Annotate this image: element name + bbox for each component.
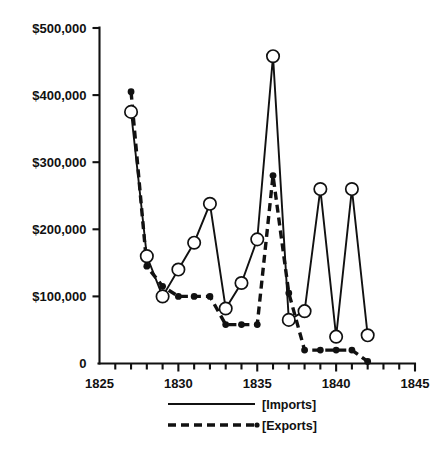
y-axis-tick-label: $300,000 [32,155,86,170]
data-point-marker [364,358,371,365]
data-point-marker [285,290,292,297]
x-axis-tick-label: 1840 [322,376,351,391]
data-series-group [125,50,374,365]
data-point-marker [143,263,150,270]
y-axis: 0$100,000$200,000$300,000$400,000$500,00… [32,21,99,372]
y-axis-tick-label: 0 [79,356,86,371]
data-point-marker [141,250,153,262]
data-point-marker [267,50,279,62]
data-point-marker [191,293,198,300]
data-point-marker [159,283,166,290]
data-point-marker [314,183,326,195]
data-point-marker [207,293,214,300]
data-point-marker [333,347,340,354]
data-point-marker [301,347,308,354]
data-point-marker [317,347,324,354]
legend-label-imports: [Imports] [262,398,316,412]
chart-figure: 0$100,000$200,000$300,000$400,000$500,00… [0,0,435,455]
data-point-marker [298,305,310,317]
y-axis-tick-label: $400,000 [32,88,86,103]
exports-series-line [131,92,368,362]
data-point-marker [330,330,342,342]
y-axis-tick-label: $100,000 [32,289,86,304]
data-point-marker [235,277,247,289]
y-axis-tick-label: $500,000 [32,21,86,36]
data-point-marker [188,237,200,249]
data-point-marker [349,347,356,354]
data-point-marker [283,314,295,326]
x-axis: 18251830183518401845 [85,364,429,391]
chart-legend: [Imports][Exports] [168,398,317,433]
data-point-marker [125,106,137,118]
x-axis-tick-label: 1830 [164,376,193,391]
data-point-marker [128,88,135,95]
data-point-marker [361,329,373,341]
data-point-marker [238,321,245,328]
data-point-marker [270,172,277,179]
x-axis-tick-label: 1845 [401,376,430,391]
x-axis-tick-label: 1825 [85,376,114,391]
x-axis-tick-label: 1835 [243,376,272,391]
data-point-marker [204,198,216,210]
data-point-marker [220,302,232,314]
y-axis-tick-label: $200,000 [32,222,86,237]
imports-exports-line-chart: 0$100,000$200,000$300,000$400,000$500,00… [0,0,435,455]
data-point-marker [346,183,358,195]
data-point-marker [156,290,168,302]
data-point-marker [251,233,263,245]
data-point-marker [254,321,261,328]
imports-series-markers [125,50,374,343]
data-point-marker [172,263,184,275]
legend-swatch-dot [254,422,259,427]
legend-label-exports: [Exports] [262,419,317,433]
exports-series [131,92,368,362]
data-point-marker [175,293,182,300]
data-point-marker [222,321,229,328]
